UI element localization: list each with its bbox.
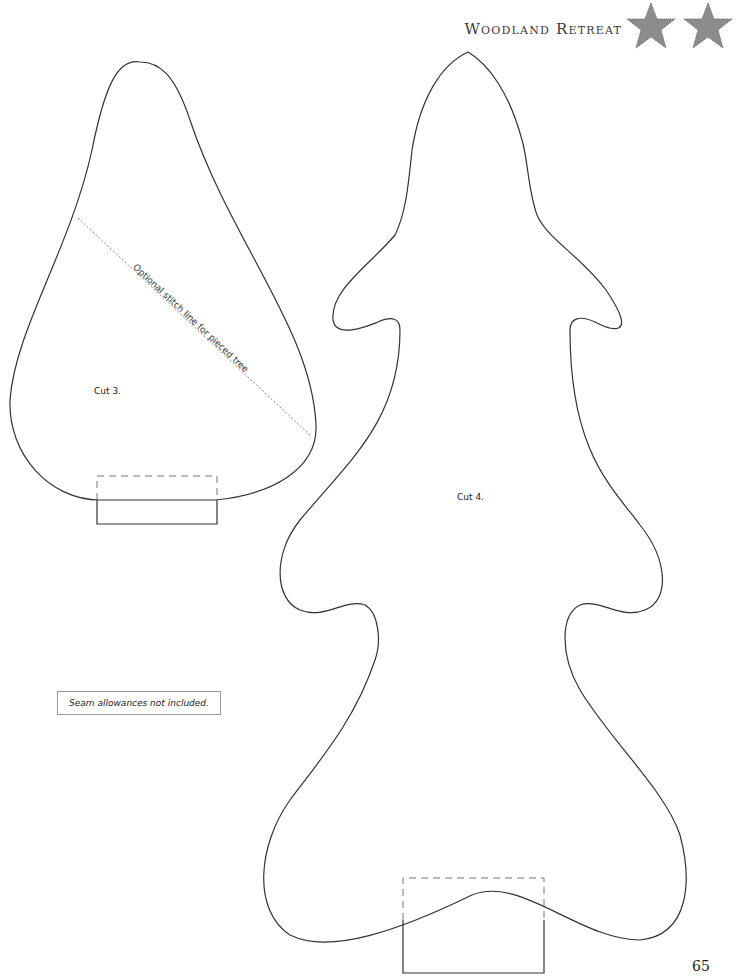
small-trunk-seam-dashed xyxy=(97,476,217,500)
page-number: 65 xyxy=(692,958,710,974)
large-tree-cut-label: Cut 4. xyxy=(457,492,484,502)
large-trunk-seam-dashed xyxy=(403,878,544,920)
pattern-artwork xyxy=(0,0,737,980)
small-trunk-outline xyxy=(97,500,217,524)
small-tree-cut-label: Cut 3. xyxy=(94,386,121,396)
large-trunk-outline xyxy=(403,920,544,973)
seam-allowance-note: Seam allowances not included. xyxy=(57,691,221,715)
small-tree-outline xyxy=(10,62,316,500)
